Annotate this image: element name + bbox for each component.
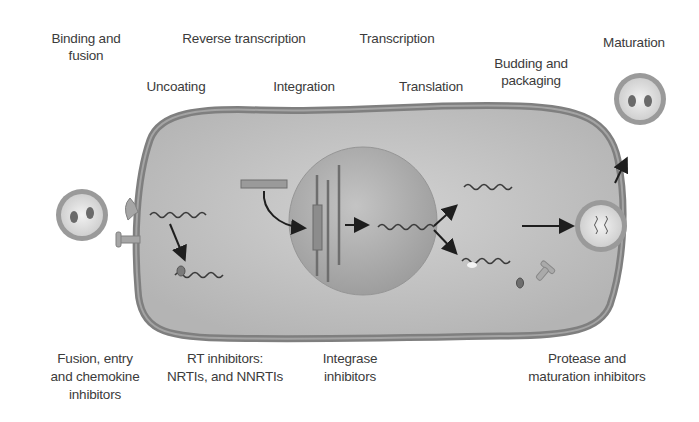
- label-line: Protease and: [512, 350, 662, 368]
- virus-binding-icon: [56, 189, 108, 241]
- label-line: Integration: [264, 78, 344, 95]
- label-translation: Translation: [392, 78, 470, 95]
- label-line: Maturation: [594, 34, 674, 51]
- label-line: Translation: [392, 78, 470, 95]
- label-transcription: Transcription: [352, 30, 442, 47]
- label-budding-packaging: Budding and packaging: [487, 55, 575, 89]
- label-binding-fusion: Binding and fusion: [44, 30, 128, 64]
- label-fusion-entry-inhibitors: Fusion, entry and chemokine inhibitors: [40, 350, 150, 404]
- label-protease-maturation-inhibitors: Protease and maturation inhibitors: [512, 350, 662, 386]
- label-line: Reverse transcription: [170, 30, 318, 47]
- label-integrase-inhibitors: Integrase inhibitors: [310, 350, 390, 386]
- label-line: inhibitors: [310, 368, 390, 386]
- label-integration: Integration: [264, 78, 344, 95]
- ribosome-icon: [177, 266, 185, 276]
- label-line: RT inhibitors:: [160, 350, 290, 368]
- label-maturation: Maturation: [594, 34, 674, 51]
- label-line: Integrase: [310, 350, 390, 368]
- label-line: and chemokine: [40, 368, 150, 386]
- label-line: NRTIs, and NNRTIs: [160, 368, 290, 386]
- protein-particle-icon: [517, 278, 524, 288]
- label-line: Binding and: [44, 30, 128, 47]
- viral-dna: [241, 180, 287, 188]
- label-line: Uncoating: [138, 78, 214, 95]
- label-line: packaging: [487, 72, 575, 89]
- protein-fragment-icon: [467, 262, 477, 268]
- label-line: Budding and: [487, 55, 575, 72]
- label-line: maturation inhibitors: [512, 368, 662, 386]
- virus-mature-icon: [614, 73, 666, 125]
- label-line: inhibitors: [40, 386, 150, 404]
- label-reverse-transcription: Reverse transcription: [170, 30, 318, 47]
- label-line: fusion: [44, 47, 128, 64]
- label-uncoating: Uncoating: [138, 78, 214, 95]
- label-rt-inhibitors: RT inhibitors: NRTIs, and NNRTIs: [160, 350, 290, 386]
- nucleus: [289, 147, 437, 295]
- virus-budding-icon: [575, 200, 627, 252]
- label-line: Transcription: [352, 30, 442, 47]
- integrated-provirus: [313, 205, 322, 250]
- label-line: Fusion, entry: [40, 350, 150, 368]
